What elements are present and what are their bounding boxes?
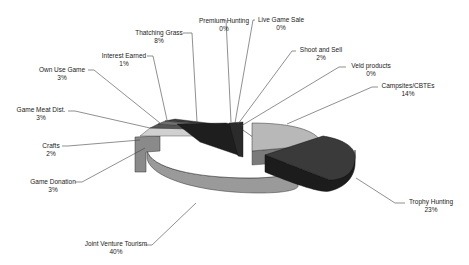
label-crafts: Crafts2%	[38, 142, 64, 158]
label-live-game-sale: Live Game Sale0%	[256, 16, 306, 32]
label-game-meat-dist: Game Meat Dist.3%	[14, 106, 68, 122]
label-thatching-grass: Thatching Grass8%	[133, 29, 185, 45]
label-premium-hunting: Premium Hunting0%	[196, 17, 252, 33]
label-joint-venture-tourism: Joint Venture Tourism40%	[84, 240, 148, 256]
label-shoot-and-sell: Shoot and Sell2%	[296, 46, 346, 62]
label-game-donation: Game Donation3%	[28, 178, 78, 194]
label-veld-products: Veld products0%	[346, 62, 396, 78]
label-interest-earned: Interest Earned1%	[98, 52, 150, 68]
pie-chart	[0, 0, 469, 265]
label-own-use-game: Own Use Game3%	[36, 66, 88, 82]
label-trophy-hunting: Trophy Hunting23%	[404, 198, 458, 214]
label-campsites-cbtes: Campsites/CBTEs14%	[378, 82, 438, 98]
